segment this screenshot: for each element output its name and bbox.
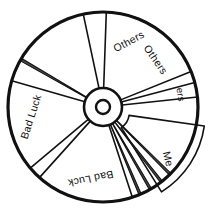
wheel-figure: OthersOthersersMeBad LuckBad Luck — [0, 0, 218, 213]
wheel-diagram: OthersOthersersMeBad LuckBad Luck — [0, 0, 218, 213]
wheel-hub-inner — [96, 100, 110, 114]
sector-label-others-right-sliver: ers — [175, 87, 188, 103]
